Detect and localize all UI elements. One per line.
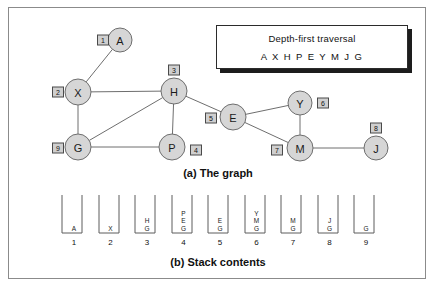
- graph-node-h[interactable]: H: [161, 78, 187, 104]
- badge-label: 9: [56, 145, 60, 152]
- stack-index-label: 9: [348, 238, 384, 247]
- badge-label: 7: [275, 147, 279, 154]
- stack-items: HG: [129, 193, 165, 234]
- node-label: P: [168, 142, 175, 154]
- stack-cell: EG5: [202, 193, 238, 253]
- visit-order-badge-2: 2: [53, 87, 64, 97]
- node-label: M: [295, 143, 304, 155]
- stack-index-label: 5: [202, 238, 238, 247]
- stack-items: JG: [312, 193, 348, 234]
- badge-label: 5: [209, 115, 213, 122]
- stack-index-label: 7: [275, 238, 311, 247]
- traversal-title: Depth-first traversal: [268, 33, 355, 44]
- caption-graph: (a) The graph: [0, 167, 436, 179]
- stack-index-label: 1: [56, 238, 92, 247]
- visit-order-badge-9: 9: [53, 143, 64, 153]
- visit-order-badge-4: 4: [191, 145, 202, 155]
- stack-cell: X2: [93, 193, 129, 253]
- stack-index-label: 2: [93, 238, 129, 247]
- traversal-box: Depth-first traversal A X H P E Y M J G: [216, 25, 408, 69]
- node-label: X: [74, 87, 82, 99]
- stack-cell: JG8: [312, 193, 348, 253]
- graph-node-m[interactable]: M: [287, 135, 313, 161]
- stack-items: G: [348, 193, 384, 234]
- node-label: E: [229, 112, 236, 124]
- stack-item: M: [290, 217, 295, 225]
- graph-node-p[interactable]: P: [159, 134, 185, 160]
- stack-items: A: [56, 193, 92, 234]
- stack-cell: YMG6: [239, 193, 275, 253]
- graph-node-y[interactable]: Y: [288, 91, 312, 115]
- node-label: A: [116, 35, 124, 47]
- traversal-sequence: A X H P E Y M J G: [261, 51, 363, 62]
- stack-item: E: [181, 217, 185, 225]
- figure-page: AXHPEYMJG 123456789 Depth-first traversa…: [0, 0, 436, 289]
- graph-edge: [172, 104, 173, 134]
- stack-item: M: [254, 217, 259, 225]
- stack-item: X: [108, 225, 112, 233]
- stack-item: J: [328, 217, 331, 225]
- graph-node-x[interactable]: X: [65, 79, 91, 105]
- stack-items: YMG: [239, 193, 275, 234]
- graph-edge: [186, 96, 221, 112]
- graph-edge: [89, 98, 163, 141]
- node-label: Y: [296, 98, 304, 110]
- stack-items: EG: [202, 193, 238, 234]
- graph-node-g[interactable]: G: [65, 134, 91, 160]
- stack-items: X: [93, 193, 129, 234]
- stack-cell: A1: [56, 193, 92, 253]
- visit-order-badge-5: 5: [206, 113, 217, 123]
- stack-contents-row: A1X2HG3PEG4EG5YMG6MG7JG8G9: [56, 193, 386, 253]
- graph-edge: [245, 122, 288, 142]
- stack-item: H: [145, 217, 150, 225]
- badge-label: 3: [172, 67, 176, 74]
- node-label: G: [74, 142, 83, 154]
- stack-cell: PEG4: [166, 193, 202, 253]
- badge-label: 8: [374, 125, 378, 132]
- stack-item: G: [327, 225, 332, 233]
- stack-item: G: [144, 225, 149, 233]
- stack-items: PEG: [166, 193, 202, 234]
- graph-edge: [246, 105, 289, 114]
- stack-cell: G9: [348, 193, 384, 253]
- stack-item: P: [181, 210, 185, 218]
- stack-item: G: [217, 225, 222, 233]
- visit-order-badge-8: 8: [371, 123, 382, 133]
- stack-item: G: [363, 225, 368, 233]
- stack-items: MG: [275, 193, 311, 234]
- caption-stack-contents: (b) Stack contents: [0, 256, 436, 268]
- node-label: H: [170, 86, 178, 98]
- node-label: J: [373, 143, 379, 155]
- visit-order-badge-6: 6: [318, 98, 329, 108]
- stack-item: Y: [254, 210, 258, 218]
- badge-label: 1: [101, 37, 105, 44]
- stack-item: E: [218, 217, 222, 225]
- stack-cell: HG3: [129, 193, 165, 253]
- stack-cell: MG7: [275, 193, 311, 253]
- badge-label: 2: [56, 89, 60, 96]
- stack-index-label: 3: [129, 238, 165, 247]
- visit-order-badge-3: 3: [169, 65, 180, 75]
- visit-order-badge-7: 7: [272, 145, 283, 155]
- stack-index-label: 6: [239, 238, 275, 247]
- stack-item: G: [181, 225, 186, 233]
- graph-edge: [91, 91, 161, 92]
- stack-item: G: [254, 225, 259, 233]
- graph-node-e[interactable]: E: [220, 104, 246, 130]
- graph-edge: [86, 49, 112, 82]
- graph-node-j[interactable]: J: [364, 136, 388, 160]
- stack-index-label: 8: [312, 238, 348, 247]
- graph-node-a[interactable]: A: [108, 28, 132, 52]
- badge-label: 6: [321, 100, 325, 107]
- badge-label: 4: [194, 147, 198, 154]
- stack-item: A: [72, 225, 76, 233]
- stack-index-label: 4: [166, 238, 202, 247]
- visit-order-badge-1: 1: [98, 35, 109, 45]
- stack-item: G: [290, 225, 295, 233]
